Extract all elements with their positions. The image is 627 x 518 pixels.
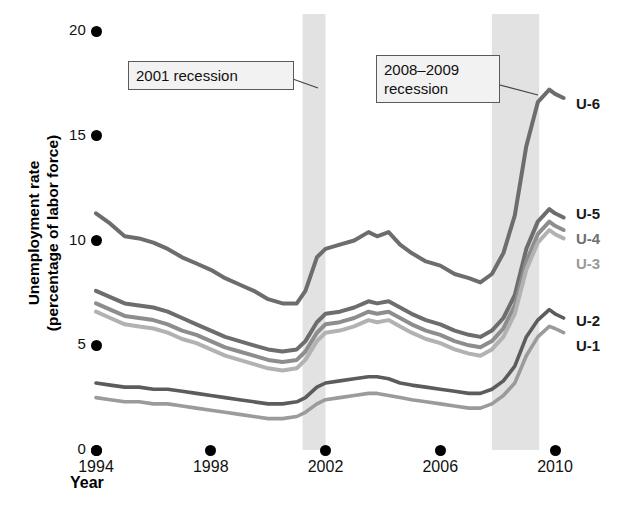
series-label-u-3: U-3 bbox=[576, 255, 600, 272]
annotation-2008-recession: 2008–2009 recession bbox=[376, 55, 500, 103]
x-tick-label-2006: 2006 bbox=[414, 458, 466, 476]
x-tick-dot-1994 bbox=[91, 445, 102, 456]
x-axis-title: Year bbox=[70, 474, 104, 492]
x-tick-label-1998: 1998 bbox=[185, 458, 237, 476]
y-axis-title-line2: (percentage of labor force) bbox=[44, 135, 61, 331]
y-tick-label-5: 5 bbox=[60, 335, 86, 352]
series-label-u-5: U-5 bbox=[576, 205, 600, 222]
annotation-2001-text: 2001 recession bbox=[136, 67, 238, 84]
x-tick-dot-1998 bbox=[205, 445, 216, 456]
y-tick-dot-10 bbox=[91, 235, 102, 246]
x-tick-label-2010: 2010 bbox=[529, 458, 581, 476]
y-tick-label-0: 0 bbox=[60, 440, 86, 457]
y-tick-label-20: 20 bbox=[60, 21, 86, 38]
series-label-u-1: U-1 bbox=[576, 337, 600, 354]
x-tick-label-2002: 2002 bbox=[300, 458, 352, 476]
annotation-2001-recession: 2001 recession bbox=[128, 61, 294, 90]
chart-plot-area bbox=[0, 0, 627, 518]
annotation-2008-text: 2008–2009 recession bbox=[384, 61, 459, 97]
y-axis-title: Unemployment rate (percentage of labor f… bbox=[24, 128, 62, 338]
x-tick-dot-2002 bbox=[320, 445, 331, 456]
y-axis-title-line1: Unemployment rate bbox=[25, 161, 42, 306]
y-tick-label-10: 10 bbox=[60, 231, 86, 248]
series-label-u-4: U-4 bbox=[576, 230, 600, 247]
y-tick-dot-5 bbox=[91, 340, 102, 351]
series-label-u-6: U-6 bbox=[576, 95, 600, 112]
y-tick-dot-20 bbox=[91, 26, 102, 37]
x-tick-dot-2006 bbox=[435, 445, 446, 456]
unemployment-rate-chart: 05101520 19941998200220062010 U-6U-5U-4U… bbox=[0, 0, 627, 518]
series-label-u-2: U-2 bbox=[576, 312, 600, 329]
y-tick-label-15: 15 bbox=[60, 126, 86, 143]
x-tick-dot-2010 bbox=[550, 445, 561, 456]
